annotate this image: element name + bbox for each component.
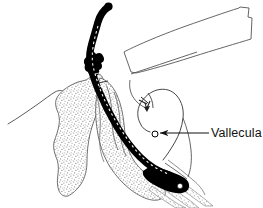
airway-illustration-figure: Vallecula [0, 0, 263, 208]
tube-murphy-eye [177, 183, 182, 188]
vallecula-marker-circle [152, 131, 158, 137]
illustration-canvas: Vallecula [0, 0, 263, 208]
vallecula-label: Vallecula [211, 126, 262, 140]
tube-proximal-tip [104, 2, 112, 10]
